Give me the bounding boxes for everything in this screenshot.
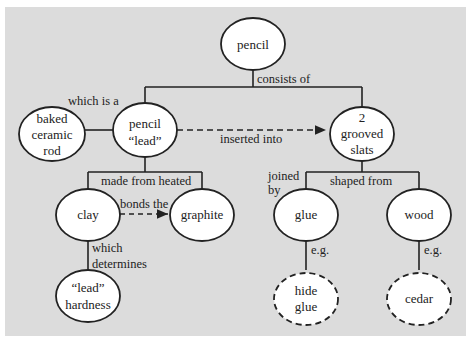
- edge-label-shaped-from: shaped from: [330, 174, 392, 188]
- node-label: 2: [359, 110, 366, 125]
- node-label: hardness: [65, 297, 111, 312]
- edge-label-eg: e.g.: [424, 243, 442, 257]
- node-label: pencil: [129, 116, 161, 131]
- node-label: “lead”: [128, 133, 161, 148]
- edge-label-which-is-a: which is a: [68, 94, 119, 108]
- node-label: slats: [350, 142, 373, 157]
- node-label: cedar: [405, 291, 434, 306]
- edge-label-inserted-into: inserted into: [220, 132, 282, 146]
- node-label: ceramic: [31, 127, 72, 142]
- node-label: hide: [295, 283, 318, 298]
- edge-label-eg: e.g.: [311, 243, 329, 257]
- node-label: clay: [77, 207, 99, 222]
- edge-label-bonds-the: bonds the: [120, 197, 169, 211]
- node-label: rod: [43, 143, 61, 158]
- edge-label-which: which: [92, 241, 123, 255]
- node-label: pencil: [237, 37, 269, 52]
- node-label: glue: [295, 207, 318, 222]
- node-label: grooved: [341, 126, 384, 141]
- node-label: wood: [405, 207, 434, 222]
- concept-map: pencil baked ceramic rod pencil “lead” 2…: [0, 0, 474, 344]
- connectors: [85, 69, 419, 270]
- node-lead-hardness: [56, 270, 120, 322]
- node-label: “lead”: [71, 280, 104, 295]
- node-label: glue: [295, 299, 318, 314]
- edge-label-consists-of: consists of: [257, 72, 311, 86]
- node-label: baked: [36, 111, 68, 126]
- edge-label-determines: determines: [92, 257, 147, 271]
- edge-label-by: by: [268, 183, 281, 197]
- edge-label-made-from-heated: made from heated: [101, 174, 192, 188]
- node-label: graphite: [181, 207, 224, 222]
- edge-label-joined: joined: [267, 169, 300, 183]
